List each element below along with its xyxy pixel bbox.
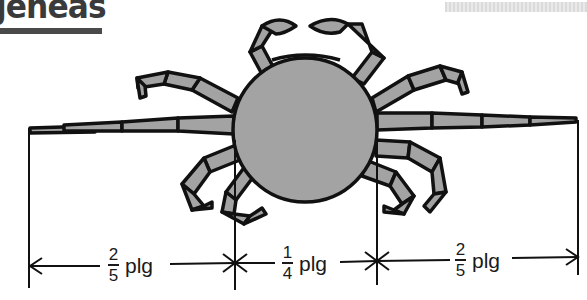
unit-label: plg xyxy=(472,250,500,271)
measurement-left-leg: 2 5 plg xyxy=(108,246,153,284)
unit-label: plg xyxy=(125,255,153,276)
fraction: 1 4 xyxy=(282,244,293,282)
crab-upper-left-leg xyxy=(137,72,238,112)
fraction: 2 5 xyxy=(455,241,466,279)
crab-upper-right-leg xyxy=(372,66,468,112)
crab-body xyxy=(233,58,377,202)
crab-lower-right-leg-2 xyxy=(362,160,414,214)
measurement-body: 1 4 plg xyxy=(282,244,327,282)
measurement-right-leg: 2 5 plg xyxy=(455,241,500,279)
unit-label: plg xyxy=(299,253,327,274)
crab-left-long-leg xyxy=(30,116,234,134)
fraction: 2 5 xyxy=(108,246,119,284)
crab-right-long-leg xyxy=(377,113,576,130)
